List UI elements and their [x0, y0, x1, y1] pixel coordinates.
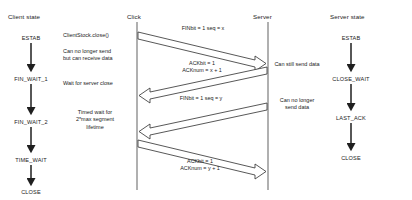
column-header-client-lifeline: Click — [127, 13, 141, 20]
client-note-no-longer-send-line2: but can receive data — [63, 55, 113, 62]
message-label-ack-y1-line1: ACKbit = 1 — [180, 158, 220, 165]
client-state-estab: ESTAB — [22, 35, 41, 41]
client-note-timed-wait-line2: 2*max segment — [76, 116, 114, 123]
message-label-ack-x1-line2: ACKnum = x + 1 — [182, 67, 222, 74]
client-state-fin-wait-2: FIN_WAIT_2 — [14, 119, 48, 125]
client-note-close-call: ClientStock.close() — [63, 32, 109, 39]
message-arrow-fin-y — [139, 103, 267, 139]
message-label-fin-x: FINbit = 1 seq = x — [182, 25, 225, 32]
server-state-estab: ESTAB — [342, 35, 361, 41]
column-header-server-lifeline: Server — [253, 13, 272, 20]
server-note-no-longer-send: Can no longer send data — [280, 97, 315, 112]
server-state-last-ack: LAST_ACK — [336, 115, 366, 121]
client-note-no-longer-send: Can no longer send but can receive data — [63, 48, 113, 63]
client-state-fin-wait-1: FIN_WAIT_1 — [14, 76, 48, 82]
message-label-ack-x1: ACKbit = 1 ACKnum = x + 1 — [182, 60, 222, 74]
client-state-time-wait: TIME_WAIT — [15, 157, 47, 163]
message-label-ack-y1: ACKbit = 1 ACKnum = y + 1 — [180, 158, 220, 172]
message-label-fin-x-line1: FINbit = 1 seq = x — [182, 25, 225, 32]
client-note-wait-server-close: Wait for server close — [63, 80, 113, 87]
server-note-no-longer-send-line1: Can no longer — [280, 97, 315, 104]
server-note-can-still-send: Can still send data — [274, 61, 319, 68]
message-label-fin-y-line1: FINbit = 1 seq = y — [180, 95, 223, 102]
client-note-timed-wait: Timed wait for 2*max segment lifetime — [76, 109, 114, 131]
column-header-server-state: Server state — [330, 13, 365, 20]
server-state-close: CLOSE — [341, 155, 361, 161]
column-header-client-state: Client state — [8, 13, 40, 20]
client-state-close: CLOSE — [21, 189, 41, 195]
message-label-ack-y1-line2: ACKnum = y + 1 — [180, 165, 220, 172]
message-label-fin-y: FINbit = 1 seq = y — [180, 95, 223, 102]
tcp-teardown-diagram: Client state Click Server Server state E… — [0, 0, 412, 200]
message-label-ack-x1-line1: ACKbit = 1 — [182, 60, 222, 67]
server-state-close-wait: CLOSE_WAIT — [332, 76, 369, 82]
client-note-no-longer-send-line1: Can no longer send — [63, 48, 113, 55]
client-note-timed-wait-line1: Timed wait for — [76, 109, 114, 116]
server-note-no-longer-send-line2: send data — [280, 104, 315, 111]
client-note-timed-wait-line3: lifetime — [76, 124, 114, 131]
